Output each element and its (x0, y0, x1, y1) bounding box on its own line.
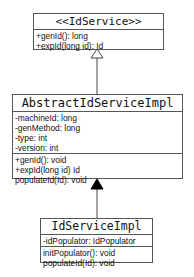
attribute: -version: int (15, 143, 180, 153)
method: +expId(long id) Id (15, 165, 180, 175)
attributes-section: -machineId: long -genMethod: long -type:… (13, 112, 182, 154)
class-box-abstractidserviceimpl[interactable]: AbstractIdServiceImpl -machineId: long -… (12, 94, 183, 179)
method: +expId(long id): Id (36, 41, 161, 51)
method: populateId(Id): void (15, 175, 180, 185)
method: +genId(): void (15, 155, 180, 165)
method: +genId(): long (36, 31, 161, 41)
class-box-idservice[interactable]: <<IdService>> +genId(): long +expId(long… (33, 13, 164, 50)
methods-section: +genId(): long +expId(long id): Id (34, 30, 163, 51)
class-title: IdServiceImpl (41, 219, 152, 235)
methods-section: initPopulator(): void populateId(Id): vo… (41, 247, 152, 268)
attribute: -type: int (15, 133, 180, 143)
attribute: -idPopulator: IdPopulator (43, 236, 150, 246)
class-title: AbstractIdServiceImpl (13, 95, 182, 112)
class-title: <<IdService>> (34, 14, 163, 30)
class-box-idserviceimpl[interactable]: IdServiceImpl -idPopulator: IdPopulator … (40, 218, 153, 263)
method: populateId(Id): void (43, 258, 150, 268)
attributes-section: -idPopulator: IdPopulator (41, 235, 152, 247)
attribute: -machineId: long (15, 113, 180, 123)
method: initPopulator(): void (43, 248, 150, 258)
methods-section: +genId(): void +expId(long id) Id popula… (13, 154, 182, 185)
attribute: -genMethod: long (15, 123, 180, 133)
